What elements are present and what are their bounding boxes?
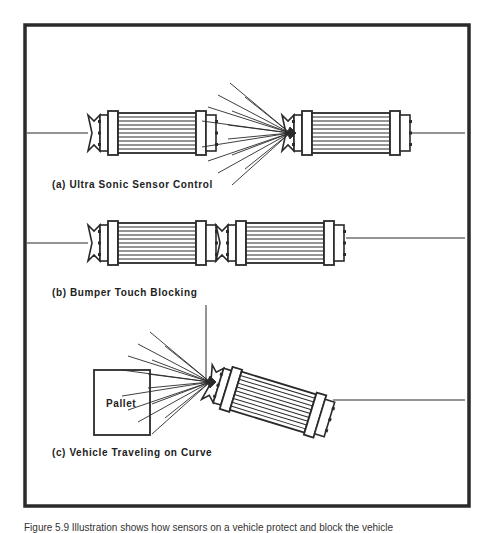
panel-a: (a) Ultra Sonic Sensor Control <box>27 83 465 190</box>
figure-caption: Figure 5.9 Illustration shows how sensor… <box>24 522 484 533</box>
pallet-label: Pallet <box>106 398 136 409</box>
panel-c-label: (c) Vehicle Traveling on Curve <box>52 447 212 458</box>
vehicle-a-rear <box>88 111 218 155</box>
vehicle-c <box>201 361 338 441</box>
vehicle-a-front <box>282 111 412 155</box>
panel-c: Pallet (c) Vehicle Traveling on Curve <box>52 305 465 458</box>
panel-a-label: (a) Ultra Sonic Sensor Control <box>52 179 213 190</box>
vehicle-b-front <box>216 221 346 265</box>
vehicle-b-rear <box>88 221 218 265</box>
panel-b-label: (b) Bumper Touch Blocking <box>52 287 197 298</box>
vehicle-c-body <box>201 361 338 441</box>
panel-b: (b) Bumper Touch Blocking <box>27 221 465 298</box>
